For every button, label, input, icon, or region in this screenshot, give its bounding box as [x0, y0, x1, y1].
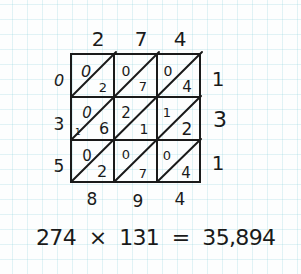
result-digit-left: 0	[54, 71, 64, 90]
cell-ones: 7	[139, 166, 147, 181]
cell-tens: 0	[122, 63, 131, 79]
diagonal	[71, 52, 116, 97]
cell-ones: 7	[139, 79, 147, 94]
cell-tens: 0	[82, 147, 92, 165]
cell-ones: 2	[99, 80, 107, 95]
result-digit-left: 3	[54, 114, 65, 134]
cell-ones: 4	[182, 78, 192, 96]
cell-ones: 2	[182, 119, 193, 139]
cell-tens: 0	[164, 63, 173, 79]
cell-ones: 4	[181, 164, 191, 182]
multiplicand-digit: 7	[135, 27, 148, 51]
cell-ones: 2	[97, 162, 107, 181]
cell-tens: 0	[82, 104, 92, 122]
multiplicand-digit: 2	[92, 27, 105, 51]
result-digit-bottom: 4	[175, 189, 186, 209]
carry-digit: 1	[75, 127, 81, 137]
cell-ones: 6	[99, 119, 109, 138]
lattice-diagram: 2 7 4 1 3 1 0 3 5 1 0 2 0 7 0 4 0 6 2 1 …	[0, 0, 301, 274]
cell-ones: 1	[140, 121, 149, 137]
cell-tens: 0	[122, 147, 130, 162]
cell-tens: 0	[163, 148, 171, 163]
cell-tens: 2	[121, 104, 131, 122]
multiplier-digit: 1	[212, 67, 225, 91]
result-digit-left: 5	[54, 156, 65, 176]
result-digit-bottom: 8	[87, 189, 98, 209]
multiplier-digit: 3	[213, 107, 227, 132]
multiplier-digit: 1	[212, 151, 225, 175]
cell-tens: 0	[81, 62, 91, 81]
cell-tens: 1	[163, 105, 171, 120]
multiplicand-digit: 4	[174, 27, 187, 51]
equation: 274 × 131 = 35,894	[36, 225, 276, 250]
result-digit-bottom: 9	[133, 191, 144, 211]
